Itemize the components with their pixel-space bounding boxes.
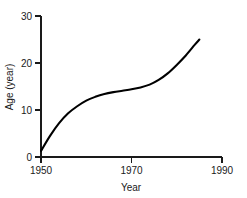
data-series-line (41, 40, 199, 151)
x-tick-label-1950: 1950 (30, 165, 53, 176)
x-tick-label-1970: 1970 (120, 165, 143, 176)
x-tick-label-1990: 1990 (211, 165, 234, 176)
line-chart-canvas: 30 20 10 0 1950 1970 1990 Year Age (year… (0, 0, 247, 198)
y-tick-label-0: 0 (26, 152, 32, 163)
x-axis-title: Year (121, 182, 142, 193)
y-tick-label-20: 20 (21, 58, 33, 69)
y-axis-title: Age (year) (4, 64, 15, 111)
y-tick-label-30: 30 (21, 11, 33, 22)
chart-figure: 30 20 10 0 1950 1970 1990 Year Age (year… (0, 0, 247, 198)
y-tick-label-10: 10 (21, 105, 33, 116)
